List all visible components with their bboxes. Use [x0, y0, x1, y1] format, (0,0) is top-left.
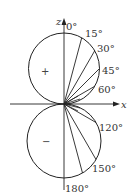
angle-label-150: 150°: [92, 163, 116, 174]
angle-label-45: 45°: [102, 65, 120, 76]
z-axis-label: z: [55, 16, 62, 27]
polar-diagram: z x + − 0° 15° 30° 45° 60° 120° 150° 180…: [0, 0, 138, 196]
x-axis-label: x: [121, 99, 127, 110]
upper-sign-label: +: [41, 66, 49, 77]
angle-label-15: 15°: [85, 28, 103, 39]
x-axis-arrow-icon: [113, 102, 120, 107]
angle-label-0: 0°: [66, 21, 77, 32]
angle-label-120: 120°: [99, 122, 123, 133]
angle-label-60: 60°: [98, 84, 116, 95]
angle-label-30: 30°: [97, 43, 115, 54]
angle-label-180: 180°: [65, 183, 89, 194]
lower-sign-label: −: [42, 136, 50, 147]
radial-lines-upper: [64, 38, 100, 104]
